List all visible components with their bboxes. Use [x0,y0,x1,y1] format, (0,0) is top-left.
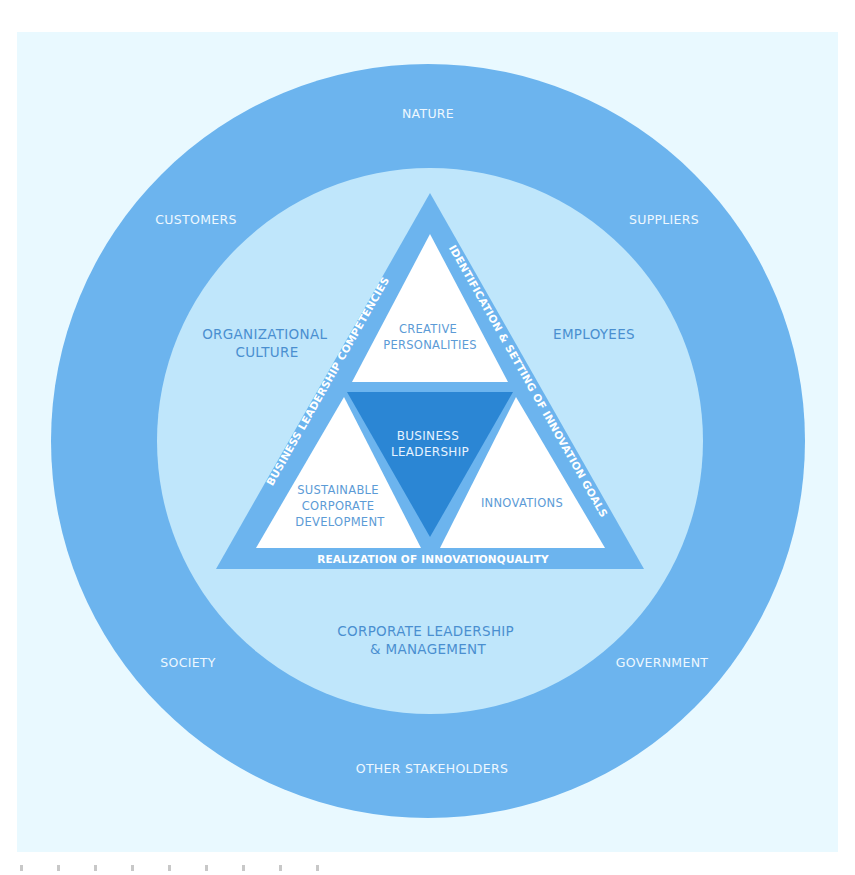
label-organizational-culture-line2: CULTURE [235,344,298,360]
label-sustainable-line3: DEVELOPMENT [295,515,385,529]
label-sustainable-line2: CORPORATE [302,499,375,513]
label-society: SOCIETY [160,655,216,670]
label-creative-line2: PERSONALITIES [383,338,477,352]
label-corporate-leadership-line1: CORPORATE LEADERSHIP [337,623,514,639]
caption-glyph [205,865,208,871]
label-realization-innovation-quality: REALIZATION OF INNOVATIONQUALITY [317,553,549,565]
label-customers: CUSTOMERS [155,212,236,227]
label-other-stakeholders: OTHER STAKEHOLDERS [356,761,508,776]
caption-glyph [94,865,97,871]
caption-glyph [57,865,60,871]
label-business-leadership-line2: LEADERSHIP [391,445,469,459]
label-sustainable-line1: SUSTAINABLE [297,483,379,497]
caption-glyph [242,865,245,871]
label-corporate-leadership-line2: & MANAGEMENT [370,641,486,657]
label-suppliers: SUPPLIERS [629,212,699,227]
label-creative-line1: CREATIVE [399,322,457,336]
label-sustainable-corporate-development: SUSTAINABLE CORPORATE DEVELOPMENT [295,483,385,529]
caption-glyph [131,865,134,871]
caption-glyph [316,865,319,871]
label-nature: NATURE [402,106,454,121]
caption-glyph [20,865,23,871]
label-organizational-culture-line1: ORGANIZATIONAL [202,326,327,342]
label-government: GOVERNMENT [616,655,709,670]
label-business-leadership-line1: BUSINESS [397,429,459,443]
label-innovations: INNOVATIONS [481,496,563,510]
label-employees: EMPLOYEES [553,326,635,342]
caption-cutoff [20,857,440,865]
caption-glyph [279,865,282,871]
caption-glyph [168,865,171,871]
